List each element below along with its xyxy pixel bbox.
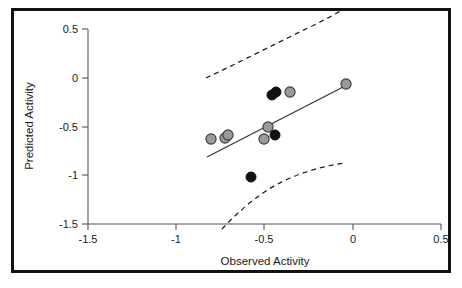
y-tick-label: 0 bbox=[42, 72, 78, 84]
data-point bbox=[259, 134, 269, 144]
y-tick-label: -0.5 bbox=[42, 121, 78, 133]
x-tick-label: 0 bbox=[333, 233, 373, 245]
x-tick-label: 0.5 bbox=[421, 233, 461, 245]
y-tick-label: -1.5 bbox=[42, 218, 78, 230]
data-point bbox=[246, 172, 256, 182]
y-axis-title: Predicted Activity bbox=[23, 66, 35, 186]
data-point bbox=[263, 122, 273, 132]
upper-confidence-band bbox=[206, 9, 344, 78]
data-point bbox=[206, 134, 216, 144]
y-tick-label: -1 bbox=[42, 169, 78, 181]
data-point bbox=[267, 90, 277, 100]
scatter-plot-figure: 0.5 0 -0.5 -1 -1.5 -1.5 -1 -0.5 0 0.5 Ob… bbox=[0, 0, 462, 288]
y-axis-ticks bbox=[82, 29, 88, 224]
y-tick-label: 0.5 bbox=[42, 23, 78, 35]
data-point bbox=[341, 79, 351, 89]
x-axis-ticks bbox=[88, 224, 441, 230]
data-point bbox=[285, 87, 295, 97]
lower-confidence-band bbox=[222, 163, 346, 229]
data-point bbox=[270, 130, 280, 140]
x-tick-label: -0.5 bbox=[244, 233, 284, 245]
x-tick-label: -1.5 bbox=[68, 233, 108, 245]
x-tick-label: -1 bbox=[156, 233, 196, 245]
data-point bbox=[223, 130, 233, 140]
x-axis-title: Observed Activity bbox=[150, 255, 380, 267]
